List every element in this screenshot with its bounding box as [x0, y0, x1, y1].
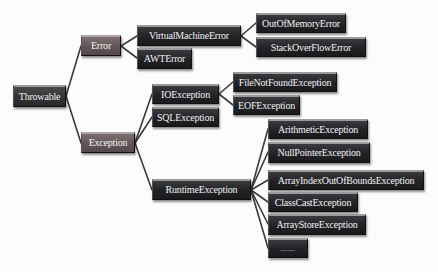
node-null-pointer-exception: NullPointerException	[268, 142, 370, 163]
node-error: Error	[81, 35, 121, 56]
edge-throwable-exception	[66, 96, 81, 143]
node-throwable: Throwable	[13, 85, 66, 107]
node-more-ellipsis: ……	[268, 238, 308, 258]
node-file-not-found-exception: FileNotFoundException	[233, 72, 337, 92]
edge-vme-sof	[241, 36, 256, 47]
edge-error-awt	[121, 46, 137, 58]
node-array-index-out-of-bounds-exception: ArrayIndexOutOfBoundsException	[268, 170, 424, 190]
node-runtime-exception: RuntimeException	[152, 179, 251, 200]
edge-vme-oom	[241, 23, 256, 36]
edge-exception-io	[135, 94, 152, 143]
node-io-exception: IOException	[152, 84, 219, 104]
exception-hierarchy-diagram: Throwable Error Exception VirtualMachine…	[0, 0, 438, 272]
edge-io-fnf	[219, 82, 233, 94]
edge-throwable-error	[66, 46, 81, 96]
node-awt-error: AWTError	[137, 48, 192, 69]
node-class-cast-exception: ClassCastException	[268, 192, 358, 212]
edge-error-vme	[121, 36, 137, 46]
node-out-of-memory-error: OutOfMemoryError	[256, 13, 346, 33]
node-exception: Exception	[81, 132, 135, 153]
node-sql-exception: SQLException	[152, 107, 219, 127]
node-array-store-exception: ArrayStoreException	[268, 214, 366, 235]
edge-exception-runtime	[135, 143, 152, 190]
node-stack-over-flow-error: StackOverFlowError	[256, 37, 366, 57]
node-eof-exception: EOFException	[233, 95, 300, 115]
node-arithmetic-exception: ArithmeticException	[268, 119, 368, 139]
node-virtual-machine-error: VirtualMachineError	[137, 25, 241, 46]
edge-io-eof	[219, 94, 233, 105]
